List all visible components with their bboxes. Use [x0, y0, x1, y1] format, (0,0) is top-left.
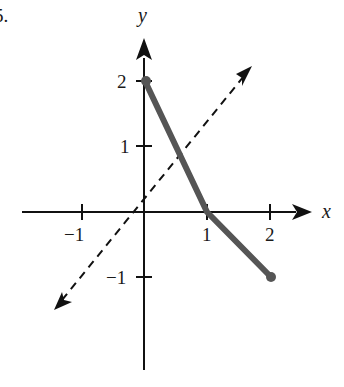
dashed-line-lower-arrow-icon [54, 292, 72, 310]
identity-line-dashed [62, 76, 244, 300]
problem-number: 5. [0, 5, 8, 26]
end-point [266, 272, 276, 282]
x-tick-label-neg1: −1 [64, 224, 84, 245]
y-axis-label: y [136, 4, 147, 27]
y-tick-label-1: 1 [120, 136, 130, 157]
graph: 5. x y −1 1 2 2 1 −1 [0, 0, 344, 387]
function-graph [145, 81, 271, 277]
y-axis-arrow-icon [136, 38, 152, 60]
y-tick-label-neg1: −1 [106, 267, 126, 288]
x-tick-label-1: 1 [202, 224, 212, 245]
y-tick-label-2: 2 [117, 71, 127, 92]
dashed-line-upper-arrow-icon [236, 66, 252, 86]
x-tick-label-2: 2 [265, 224, 275, 245]
x-axis-label: x [321, 200, 331, 222]
start-point [141, 76, 151, 86]
